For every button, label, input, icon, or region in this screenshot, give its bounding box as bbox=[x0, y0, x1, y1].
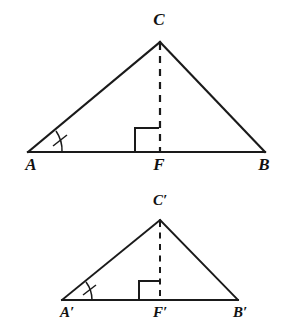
vertex-label-b-prime: B′ bbox=[232, 304, 247, 320]
vertex-label-a-prime: A′ bbox=[59, 304, 74, 320]
vertex-label-a: A bbox=[24, 155, 36, 174]
geometry-figure: C A F B C′ A′ F′ B′ bbox=[0, 0, 290, 322]
vertex-label-f-prime: F′ bbox=[152, 304, 167, 320]
vertex-label-f: F bbox=[152, 155, 165, 174]
segment-a-prime-c-prime bbox=[62, 220, 160, 300]
triangle-a-prime-b-prime-c-prime-group: C′ A′ F′ B′ bbox=[59, 192, 247, 320]
right-angle-marker-f bbox=[135, 128, 159, 151]
figure-canvas: C A F B C′ A′ F′ B′ bbox=[0, 0, 290, 322]
segment-ac bbox=[28, 42, 160, 152]
segment-c-prime-b-prime bbox=[160, 220, 238, 300]
right-angle-marker-f-prime bbox=[139, 281, 159, 299]
vertex-label-c: C bbox=[153, 10, 165, 29]
vertex-label-c-prime: C′ bbox=[153, 192, 167, 208]
vertex-label-b: B bbox=[257, 155, 269, 174]
segment-cb bbox=[160, 42, 265, 152]
triangle-abc-group: C A F B bbox=[24, 10, 269, 174]
